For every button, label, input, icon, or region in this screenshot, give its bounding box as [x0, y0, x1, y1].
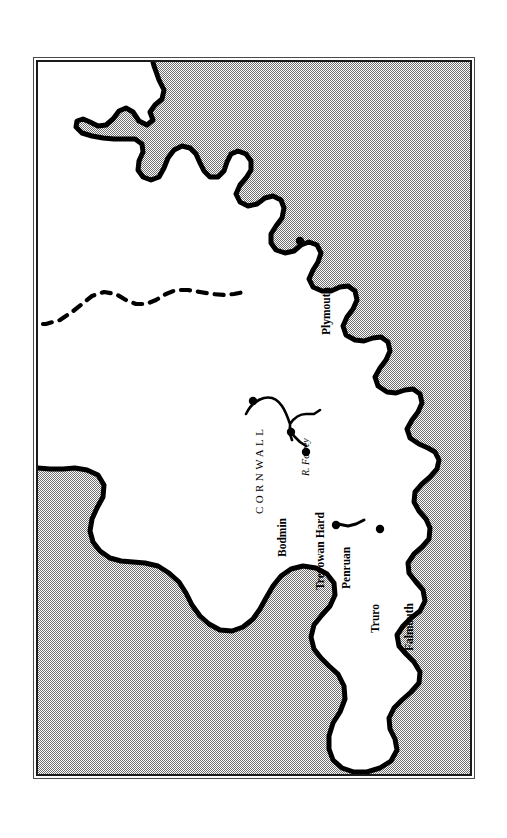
map-frame-outer-border: Plymouth Bodmin Trevowan Hard Penruan Tr…: [33, 57, 475, 779]
marker-falmouth: [376, 525, 384, 533]
map-frame-inner-border: Plymouth Bodmin Trevowan Hard Penruan Tr…: [36, 60, 472, 776]
marker-bodmin: [249, 397, 257, 405]
marker-penruan: [302, 448, 310, 456]
cornwall-map-graphic: [38, 62, 472, 776]
marker-trevowan-hard: [287, 428, 295, 436]
map-geometry: [38, 62, 472, 776]
map-render-group: [38, 62, 472, 776]
marker-plymouth: [296, 237, 304, 245]
marker-truro: [332, 521, 340, 529]
map-page: Plymouth Bodmin Trevowan Hard Penruan Tr…: [0, 0, 507, 838]
